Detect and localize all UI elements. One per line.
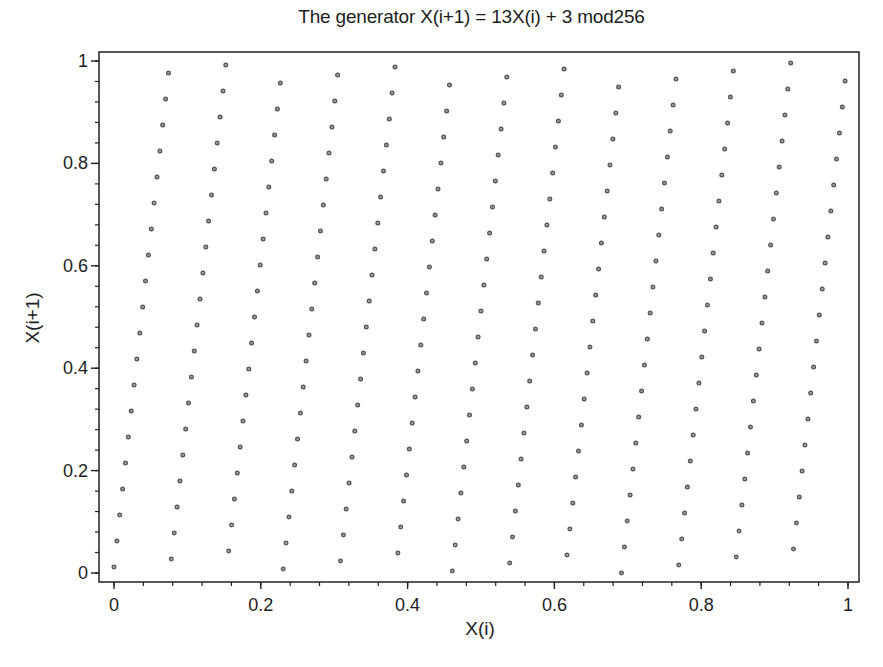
data-point (531, 353, 535, 357)
data-point (135, 357, 139, 361)
data-point (783, 113, 787, 117)
data-point (310, 307, 314, 311)
data-point (820, 287, 824, 291)
data-point (677, 563, 681, 567)
data-point (413, 395, 417, 399)
data-point (485, 257, 489, 261)
y-tick-label: 1 (78, 51, 88, 71)
data-point (551, 171, 555, 175)
data-point (333, 99, 337, 103)
data-point (224, 63, 228, 67)
data-point (792, 547, 796, 551)
data-point (651, 285, 655, 289)
y-tick-label: 0.2 (63, 461, 88, 481)
data-point (230, 523, 234, 527)
x-tick-label: 0.4 (395, 595, 420, 615)
data-point (654, 259, 658, 263)
data-point (637, 415, 641, 419)
data-point (803, 443, 807, 447)
data-point (198, 297, 202, 301)
data-point (479, 309, 483, 313)
data-point (697, 381, 701, 385)
data-point (625, 519, 629, 523)
data-point (362, 351, 366, 355)
data-point (516, 483, 520, 487)
x-tick-label: 0.8 (689, 595, 714, 615)
data-point (210, 193, 214, 197)
data-point (293, 463, 297, 467)
data-point (680, 537, 684, 541)
data-point (519, 457, 523, 461)
data-point (815, 339, 819, 343)
data-point (141, 305, 145, 309)
data-point (754, 373, 758, 377)
data-point (760, 321, 764, 325)
x-tick-label: 0.6 (542, 595, 567, 615)
data-point (608, 163, 612, 167)
data-point (144, 279, 148, 283)
data-point (430, 239, 434, 243)
data-point (124, 461, 128, 465)
data-point (410, 421, 414, 425)
data-point (657, 233, 661, 237)
data-point (344, 507, 348, 511)
data-point (316, 255, 320, 259)
data-point (591, 319, 595, 323)
data-point (387, 117, 391, 121)
data-point (840, 105, 844, 109)
data-point (155, 175, 159, 179)
data-point (299, 411, 303, 415)
data-point (766, 269, 770, 273)
data-point (379, 195, 383, 199)
data-point (327, 151, 331, 155)
data-point (350, 455, 354, 459)
data-point (313, 281, 317, 285)
data-point (459, 491, 463, 495)
data-point (147, 253, 151, 257)
data-point (700, 355, 704, 359)
data-point (686, 485, 690, 489)
data-point (382, 169, 386, 173)
data-point (172, 531, 176, 535)
y-tick-label: 0 (78, 563, 88, 583)
data-point (502, 101, 506, 105)
data-point (356, 403, 360, 407)
data-point (714, 225, 718, 229)
data-point (559, 93, 563, 97)
y-axis-ticks: 00.20.40.60.81 (63, 51, 99, 583)
data-point (201, 271, 205, 275)
data-point (817, 313, 821, 317)
data-point (370, 273, 374, 277)
data-point (376, 221, 380, 225)
data-point (247, 367, 251, 371)
data-point (161, 123, 165, 127)
data-point (731, 69, 735, 73)
data-point (617, 85, 621, 89)
data-point (786, 87, 790, 91)
data-point (488, 231, 492, 235)
data-point (336, 73, 340, 77)
data-point (436, 187, 440, 191)
data-point (600, 241, 604, 245)
data-point (281, 567, 285, 571)
data-point (175, 505, 179, 509)
data-point (797, 495, 801, 499)
data-point (158, 149, 162, 153)
data-point (152, 201, 156, 205)
data-point (491, 205, 495, 209)
data-point (473, 361, 477, 365)
data-point (405, 473, 409, 477)
data-point (276, 107, 280, 111)
data-point (571, 501, 575, 505)
data-point (493, 179, 497, 183)
data-point (238, 445, 242, 449)
data-point (614, 111, 618, 115)
data-point (723, 147, 727, 151)
data-point (399, 525, 403, 529)
data-point (499, 127, 503, 131)
data-point (241, 419, 245, 423)
data-point (505, 75, 509, 79)
data-point (169, 557, 173, 561)
data-point (195, 323, 199, 327)
data-point (476, 335, 480, 339)
